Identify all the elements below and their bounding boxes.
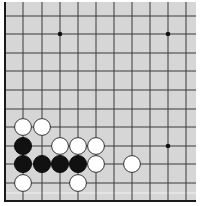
black-stone[interactable]	[51, 155, 68, 172]
black-stone[interactable]	[33, 155, 50, 172]
white-stone[interactable]	[70, 138, 87, 155]
star-point	[58, 32, 63, 37]
white-stone[interactable]	[15, 119, 32, 136]
black-stone[interactable]	[69, 155, 86, 172]
star-point	[166, 144, 171, 149]
white-stone[interactable]	[52, 138, 69, 155]
white-stone[interactable]	[70, 175, 87, 192]
white-stone[interactable]	[88, 156, 105, 173]
black-stone[interactable]	[14, 137, 31, 154]
white-stone[interactable]	[88, 138, 105, 155]
white-stone[interactable]	[124, 156, 141, 173]
white-stone[interactable]	[34, 119, 51, 136]
white-stone[interactable]	[15, 175, 32, 192]
go-board	[0, 0, 201, 206]
black-stone[interactable]	[14, 155, 31, 172]
star-point	[166, 32, 171, 37]
